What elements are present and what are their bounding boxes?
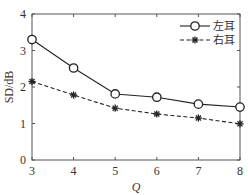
series-1 [28,35,244,111]
legend-item-2: 右耳 [180,33,235,47]
circle-marker [111,90,119,98]
series-layer [28,35,244,127]
circle-marker [69,64,77,72]
y-tick-label: 0 [20,153,26,167]
x-tick-label: 3 [29,164,35,178]
star-marker [191,36,198,43]
star-marker [195,114,202,121]
star-marker [70,91,77,98]
y-tick-label: 2 [20,80,26,94]
series-line [32,82,240,124]
star-marker [112,105,119,112]
x-axis-title: Q [132,180,141,194]
circle-marker [236,103,244,111]
circle-marker [153,93,161,101]
legend-item-1: 左耳 [180,20,235,33]
star-marker [236,120,243,127]
star-marker [153,110,160,117]
circle-marker [28,35,36,43]
legend: 左耳右耳 [180,20,235,47]
plot-frame [32,14,240,160]
plot-axes: 01234345678 [20,7,243,178]
series-line [32,40,240,108]
circle-marker [191,22,199,30]
x-tick-label: 4 [71,164,77,178]
x-tick-label: 5 [112,164,118,178]
y-tick-label: 1 [20,117,26,131]
y-axis-title: SD/dB [2,71,16,104]
circle-marker [194,100,202,108]
x-tick-label: 6 [154,164,160,178]
y-tick-label: 3 [20,44,26,58]
legend-label: 右耳 [213,33,235,47]
line-chart: 01234345678 左耳右耳 SD/dB Q [0,0,248,195]
legend-label: 左耳 [213,20,235,33]
y-tick-label: 4 [20,7,26,21]
x-tick-label: 7 [195,164,201,178]
x-tick-label: 8 [237,164,243,178]
series-2 [28,78,243,128]
star-marker [28,78,35,85]
